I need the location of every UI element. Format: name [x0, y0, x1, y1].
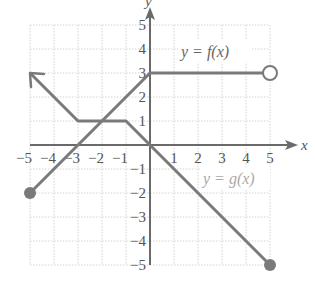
f-label: y = f(x)	[179, 43, 229, 61]
f-closed-endpoint	[24, 187, 36, 199]
svg-text:−1: −1	[130, 161, 146, 177]
axes	[30, 7, 298, 265]
svg-text:−5: −5	[130, 257, 146, 273]
svg-text:−1: −1	[112, 150, 128, 166]
svg-text:1: 1	[139, 113, 147, 129]
g-label: y = g(x)	[201, 170, 255, 188]
svg-text:−3: −3	[130, 209, 146, 225]
svg-text:−4: −4	[130, 233, 146, 249]
svg-text:2: 2	[194, 150, 202, 166]
svg-text:5: 5	[266, 150, 274, 166]
g-closed-endpoint	[264, 259, 276, 271]
svg-text:5: 5	[139, 17, 147, 33]
svg-text:4: 4	[139, 41, 147, 57]
svg-text:−2: −2	[130, 185, 146, 201]
svg-text:−5: −5	[16, 150, 32, 166]
graph: x y −5 −4 −3 −2 −1 1 2 3 4 5 5 4 3 2 1 −…	[0, 0, 315, 288]
y-axis-label: y	[143, 0, 152, 9]
f-open-endpoint	[263, 66, 277, 80]
svg-text:2: 2	[139, 89, 147, 105]
x-axis-label: x	[300, 137, 308, 153]
svg-text:3: 3	[218, 150, 226, 166]
svg-text:1: 1	[170, 150, 178, 166]
svg-text:4: 4	[242, 150, 250, 166]
svg-text:−4: −4	[40, 150, 56, 166]
svg-text:−2: −2	[88, 150, 104, 166]
